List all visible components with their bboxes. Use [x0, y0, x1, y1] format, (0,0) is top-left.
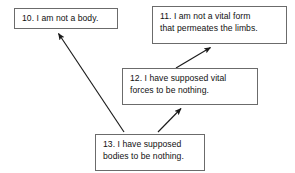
- proposition-box-10: 10. I am not a body.: [14, 8, 118, 29]
- proposition-box-13: 13. I have supposed bodies to be nothing…: [95, 134, 205, 171]
- proposition-box-11: 11. I am not a vital form that permeates…: [152, 6, 287, 44]
- argument-map-diagram: 10. I am not a body. 11. I am not a vita…: [0, 0, 295, 173]
- arrow-13-to-10: [59, 34, 125, 133]
- proposition-box-12: 12. I have supposed vital forces to be n…: [122, 68, 258, 105]
- arrow-12-to-11: [176, 48, 211, 69]
- arrow-13-to-12: [158, 109, 181, 133]
